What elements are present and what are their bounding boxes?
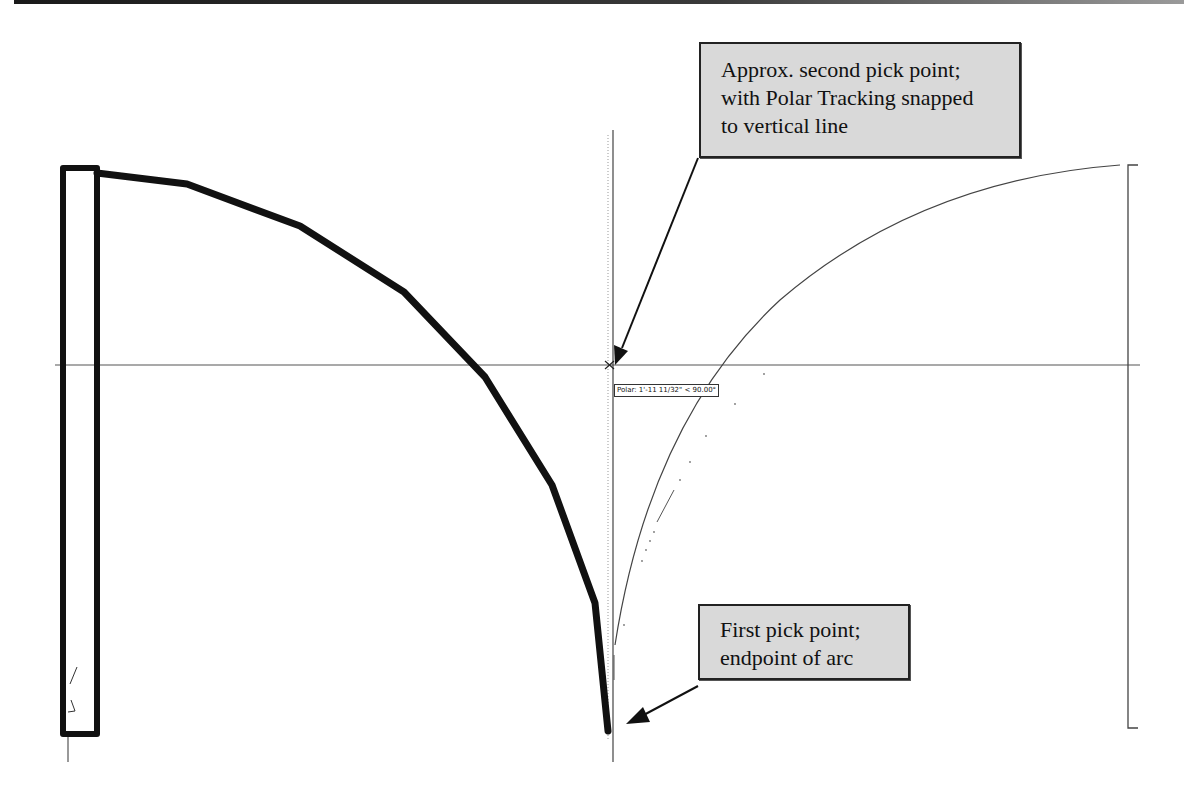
- leader-line-first-pick: [640, 686, 698, 717]
- callout-text-line: with Polar Tracking snapped: [721, 84, 1019, 112]
- ucs-marker: [70, 667, 77, 684]
- post-rectangle[interactable]: [63, 168, 97, 734]
- thick-arc-polyline[interactable]: [97, 173, 608, 731]
- tracking-dots: [623, 373, 765, 626]
- ucs-marker-triangle: [68, 700, 75, 712]
- callout-text-line: to vertical line: [721, 112, 1019, 140]
- arrowhead-first-pick-icon: [626, 707, 650, 724]
- arc-preview-dash: [657, 490, 674, 522]
- arrowhead-second-pick-icon: [614, 345, 628, 365]
- callout-text-line: Approx. second pick point;: [721, 56, 1019, 84]
- extent-bracket: [1128, 165, 1138, 728]
- polar-tracking-tooltip: Polar: 1'-11 11/32" < 90.00°: [614, 384, 719, 397]
- callout-second-pick-point: Approx. second pick point; with Polar Tr…: [699, 42, 1021, 158]
- callout-text-line: endpoint of arc: [720, 644, 908, 672]
- leader-line-second-pick: [622, 158, 698, 348]
- callout-text-line: First pick point;: [720, 616, 908, 644]
- thin-arc[interactable]: [615, 165, 1120, 645]
- callout-first-pick-point: First pick point; endpoint of arc: [698, 604, 910, 680]
